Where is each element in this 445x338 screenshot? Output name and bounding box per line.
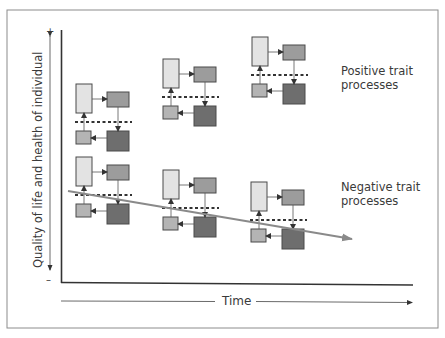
dark-box: [107, 204, 129, 224]
positive-trait-label-line1: Positive trait: [341, 64, 413, 78]
small-box: [76, 131, 91, 144]
process-cycle-negative-3: [250, 182, 307, 249]
mid-box: [194, 178, 216, 193]
light-box: [251, 182, 267, 211]
positive-trait-label: Positive trait processes: [341, 64, 413, 92]
process-cycle-negative-2: [162, 170, 219, 237]
dark-box: [283, 84, 305, 104]
negative-trait-label: Negative trait processes: [341, 180, 420, 208]
light-box: [252, 37, 268, 66]
light-box: [76, 157, 92, 186]
light-box: [76, 84, 92, 113]
small-box: [163, 217, 178, 230]
dark-box: [107, 131, 129, 151]
process-cycle-positive-2: [162, 59, 219, 126]
y-axis-minus-marker: –: [46, 273, 51, 287]
figure-frame: [7, 10, 438, 328]
y-axis-label: Quality of life and health of individual: [31, 51, 45, 268]
light-box: [163, 59, 179, 88]
mid-box: [194, 67, 216, 82]
process-cycle-positive-1: [75, 84, 132, 151]
mid-box: [283, 45, 305, 60]
small-box: [163, 106, 178, 119]
small-box: [252, 84, 267, 97]
negative-trait-label-line1: Negative trait: [341, 180, 420, 194]
mid-box: [107, 165, 129, 180]
process-cycle-positive-3: [251, 37, 308, 104]
positive-trait-label-line2: processes: [341, 78, 413, 92]
light-box: [163, 170, 179, 199]
x-axis-label: Time: [222, 294, 251, 308]
diagram-canvas: [0, 0, 445, 338]
dark-box: [194, 106, 216, 126]
dark-box: [282, 229, 304, 249]
y-axis-plus-marker: +: [46, 25, 54, 39]
small-box: [76, 204, 91, 217]
mid-box: [282, 190, 304, 205]
process-cycle-negative-1: [75, 157, 132, 224]
x-axis: [61, 283, 413, 286]
mid-box: [107, 92, 129, 107]
small-box: [251, 229, 266, 242]
negative-trait-label-line2: processes: [341, 194, 420, 208]
dark-box: [194, 217, 216, 237]
